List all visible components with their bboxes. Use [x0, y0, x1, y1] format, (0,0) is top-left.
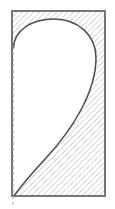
technical-drawing-svg [0, 0, 115, 209]
figure-container [0, 0, 115, 209]
